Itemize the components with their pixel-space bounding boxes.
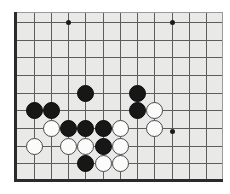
white-stone[interactable] (146, 120, 163, 137)
black-stone[interactable] (129, 102, 146, 119)
white-stone[interactable] (26, 138, 43, 155)
white-stone[interactable] (112, 120, 129, 137)
grid-line-vertical-1 (51, 13, 52, 181)
star-point-0 (66, 20, 71, 25)
board-edge-left (14, 12, 17, 182)
black-stone[interactable] (77, 120, 94, 137)
grid-line-vertical-9 (189, 13, 190, 181)
black-stone[interactable] (95, 138, 112, 155)
grid-line-horizontal-2 (15, 57, 223, 58)
white-stone[interactable] (112, 155, 129, 172)
white-stone[interactable] (112, 138, 129, 155)
board-edge-top (15, 12, 223, 13)
white-stone[interactable] (60, 138, 77, 155)
star-point-1 (170, 20, 175, 25)
black-stone[interactable] (95, 120, 112, 137)
grid-line-vertical-7 (154, 13, 155, 181)
grid-line-vertical-8 (172, 13, 173, 181)
white-stone[interactable] (77, 138, 94, 155)
white-stone[interactable] (43, 120, 60, 137)
black-stone[interactable] (43, 102, 60, 119)
black-stone[interactable] (77, 85, 94, 102)
black-stone[interactable] (77, 155, 94, 172)
grid-line-vertical-10 (206, 13, 207, 181)
grid-line-horizontal-1 (15, 40, 223, 41)
grid-line-horizontal-3 (15, 75, 223, 76)
white-stone[interactable] (146, 102, 163, 119)
black-stone[interactable] (26, 102, 43, 119)
white-stone[interactable] (95, 155, 112, 172)
grid-line-vertical-0 (34, 13, 35, 181)
grid-line-horizontal-0 (15, 22, 223, 23)
board-edge-bottom (14, 179, 223, 182)
board-edge-right (222, 12, 223, 182)
grid-line-horizontal-4 (15, 93, 223, 94)
star-point-2 (170, 129, 175, 134)
black-stone[interactable] (60, 120, 77, 137)
black-stone[interactable] (129, 85, 146, 102)
grid-line-vertical-2 (68, 13, 69, 181)
go-board-screenshot (0, 0, 230, 194)
